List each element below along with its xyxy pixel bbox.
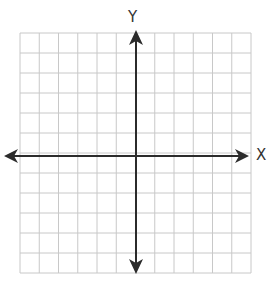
y-axis-label: Y — [128, 10, 137, 25]
x-axis-label: X — [256, 148, 266, 163]
coordinate-plane — [0, 0, 280, 284]
